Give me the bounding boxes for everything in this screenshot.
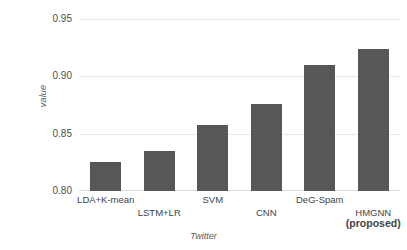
bar-chart-figure: value 0.95 0.90 0.85 0.80 LDA+K-mean LST… — [0, 0, 407, 250]
bar-hmgnn-proposed — [358, 49, 389, 191]
x-tick-line1: DeG-Spam — [296, 194, 344, 205]
x-tick-label-cnn: CNN — [221, 207, 311, 218]
y-tick-label-0.85: 0.85 — [38, 128, 72, 139]
bar-deg-spam — [304, 65, 335, 191]
x-axis-baseline — [79, 190, 400, 191]
gridline-0.90 — [79, 76, 400, 77]
plot-area — [79, 19, 400, 191]
bar-cnn — [251, 104, 282, 191]
x-tick-line2: (proposed) — [346, 217, 401, 229]
x-tick-line1: LSTM+LR — [138, 207, 181, 218]
x-tick-label-deg-spam: DeG-Spam — [275, 194, 365, 205]
x-axis-label: Twitter — [0, 231, 407, 241]
x-tick-line1: LDA+K-mean — [77, 194, 134, 205]
gridline-0.95 — [79, 19, 400, 20]
x-tick-line1: CNN — [256, 207, 277, 218]
bar-svm — [197, 125, 228, 192]
x-tick-line1: SVM — [202, 194, 223, 205]
y-tick-label-0.90: 0.90 — [38, 70, 72, 81]
x-tick-label-lstm-lr: LSTM+LR — [114, 207, 204, 218]
gridline-0.85 — [79, 134, 400, 135]
x-tick-label-svm: SVM — [168, 194, 258, 205]
bar-lstm-lr — [144, 151, 175, 191]
y-tick-label-0.95: 0.95 — [38, 13, 72, 24]
x-tick-label-hmgnn-proposed: HMGNN (proposed) — [328, 207, 407, 229]
x-tick-label-lda-k-mean: LDA+K-mean — [61, 194, 151, 205]
bar-lda-k-mean — [90, 162, 121, 191]
